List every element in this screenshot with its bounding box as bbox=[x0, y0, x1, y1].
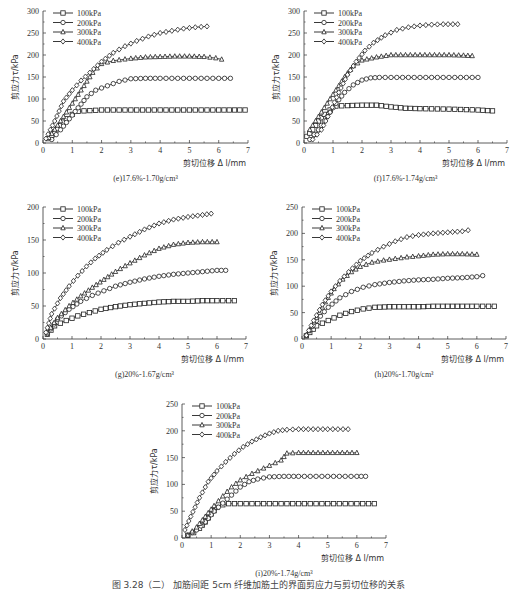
x-tick-label: 2 bbox=[100, 146, 104, 155]
x-tick-label: 7 bbox=[505, 146, 509, 155]
legend-item: 300kPa bbox=[336, 224, 360, 233]
x-tick-label: 3 bbox=[387, 342, 391, 351]
y-tick-label: 200 bbox=[27, 203, 39, 212]
x-tick-label: 1 bbox=[70, 342, 74, 351]
x-tick-label: 0 bbox=[41, 342, 45, 351]
series-400kPa bbox=[311, 22, 460, 142]
x-tick-label: 5 bbox=[446, 342, 450, 351]
legend-item: 300kPa bbox=[338, 28, 362, 37]
x-tick-label: 2 bbox=[360, 146, 364, 155]
y-tick-label: 0 bbox=[35, 335, 39, 344]
x-tick-label: 4 bbox=[417, 342, 421, 351]
y-tick-label: 150 bbox=[27, 236, 39, 245]
legend: 100kPa200kPa300kPa400kPa bbox=[312, 205, 360, 243]
figure-caption: 图 3.28（二） 加筋间距 5cm 纤维加筋土的界面剪应力与剪切位移的关系 bbox=[0, 578, 517, 591]
x-tick-label: 7 bbox=[246, 146, 250, 155]
legend-item: 300kPa bbox=[77, 28, 101, 37]
y-tick-label: 300 bbox=[288, 7, 300, 16]
y-tick-label: 0 bbox=[294, 335, 298, 344]
legend-item: 100kPa bbox=[216, 402, 240, 411]
chart-subtitle: (e)17.6%-1.70g/cm³ bbox=[113, 174, 178, 183]
y-tick-label: 200 bbox=[286, 229, 298, 238]
x-tick-label: 1 bbox=[70, 146, 74, 155]
x-tick-label: 4 bbox=[157, 342, 161, 351]
y-tick-label: 50 bbox=[31, 302, 39, 311]
x-tick-label: 1 bbox=[331, 146, 335, 155]
x-tick-label: 3 bbox=[128, 342, 132, 351]
y-tick-label: 250 bbox=[166, 400, 178, 409]
series-100kPa bbox=[304, 304, 496, 338]
legend-item: 400kPa bbox=[336, 234, 360, 243]
legend-item: 100kPa bbox=[336, 205, 360, 214]
legend-item: 200kPa bbox=[216, 412, 240, 421]
y-tick-label: 200 bbox=[166, 427, 178, 436]
legend-item: 400kPa bbox=[77, 234, 101, 243]
chart-panel-e: 01234567050100150200250300剪应力τ/kPa剪切位移 Δ… bbox=[10, 7, 250, 183]
y-axis-label: 剪应力τ/kPa bbox=[271, 54, 281, 100]
y-tick-label: 100 bbox=[288, 95, 300, 104]
x-tick-label: 3 bbox=[389, 146, 393, 155]
x-axis-label: 剪切位移 Δ l/mm bbox=[441, 354, 504, 364]
x-tick-label: 0 bbox=[302, 146, 306, 155]
chart-subtitle: (g)20%-1.67g/cm³ bbox=[115, 370, 175, 379]
y-tick-label: 50 bbox=[290, 309, 298, 318]
legend-item: 400kPa bbox=[216, 431, 240, 440]
y-tick-label: 100 bbox=[27, 95, 39, 104]
x-axis-label: 剪切位移 Δ l/mm bbox=[181, 354, 244, 364]
y-axis-label: 剪应力τ/kPa bbox=[10, 54, 20, 100]
x-tick-label: 5 bbox=[186, 342, 190, 351]
x-tick-label: 6 bbox=[217, 146, 221, 155]
x-tick-label: 7 bbox=[384, 541, 388, 550]
x-tick-label: 2 bbox=[238, 541, 242, 550]
x-tick-label: 1 bbox=[209, 541, 213, 550]
y-tick-label: 0 bbox=[174, 534, 178, 543]
x-tick-label: 5 bbox=[326, 541, 330, 550]
y-axis-label: 剪应力τ/kPa bbox=[10, 250, 20, 296]
x-tick-label: 4 bbox=[158, 146, 162, 155]
series-300kPa bbox=[47, 54, 224, 140]
x-axis-label: 剪切位移 Δ l/mm bbox=[442, 158, 505, 168]
x-tick-label: 4 bbox=[418, 146, 422, 155]
y-tick-label: 0 bbox=[35, 139, 39, 148]
x-tick-label: 7 bbox=[244, 342, 248, 351]
chart-panel-f: 01234567050100150200250300剪应力τ/kPa剪切位移 Δ… bbox=[271, 7, 509, 183]
x-axis-label: 剪切位移 Δ l/mm bbox=[321, 553, 384, 563]
legend-item: 100kPa bbox=[338, 9, 362, 18]
chart-subtitle: (i)20%-1.74g/cm³ bbox=[255, 569, 313, 578]
figure-canvas: 01234567050100150200250300剪应力τ/kPa剪切位移 Δ… bbox=[0, 0, 517, 592]
y-tick-label: 200 bbox=[288, 51, 300, 60]
y-tick-label: 50 bbox=[31, 117, 39, 126]
y-tick-label: 0 bbox=[296, 139, 300, 148]
legend-item: 400kPa bbox=[338, 38, 362, 47]
y-tick-label: 250 bbox=[27, 29, 39, 38]
y-axis-label: 剪应力τ/kPa bbox=[149, 448, 159, 494]
legend-item: 100kPa bbox=[77, 9, 101, 18]
x-tick-label: 3 bbox=[129, 146, 133, 155]
series-300kPa bbox=[186, 450, 359, 537]
x-tick-label: 5 bbox=[447, 146, 451, 155]
series-300kPa bbox=[304, 251, 479, 337]
legend-item: 300kPa bbox=[216, 421, 240, 430]
x-tick-label: 6 bbox=[215, 342, 219, 351]
y-tick-label: 150 bbox=[286, 256, 298, 265]
legend-item: 200kPa bbox=[77, 19, 101, 28]
y-tick-label: 250 bbox=[288, 29, 300, 38]
legend-item: 400kPa bbox=[77, 38, 101, 47]
x-tick-label: 6 bbox=[355, 541, 359, 550]
y-tick-label: 100 bbox=[27, 269, 39, 278]
legend-item: 300kPa bbox=[77, 224, 101, 233]
y-axis-label: 剪应力τ/kPa bbox=[269, 250, 279, 296]
legend-item: 100kPa bbox=[77, 205, 101, 214]
legend: 100kPa200kPa300kPa400kPa bbox=[314, 9, 362, 47]
x-tick-label: 0 bbox=[300, 342, 304, 351]
y-tick-label: 300 bbox=[27, 7, 39, 16]
x-tick-label: 0 bbox=[41, 146, 45, 155]
x-tick-label: 6 bbox=[476, 146, 480, 155]
chart-panel-i: 01234567050100150200250剪应力τ/kPa剪切位移 Δ l/… bbox=[149, 400, 388, 578]
legend: 100kPa200kPa300kPa400kPa bbox=[192, 402, 240, 440]
x-tick-label: 6 bbox=[475, 342, 479, 351]
x-axis-label: 剪切位移 Δ l/mm bbox=[183, 158, 246, 168]
y-tick-label: 100 bbox=[286, 282, 298, 291]
y-tick-label: 50 bbox=[292, 117, 300, 126]
y-tick-label: 50 bbox=[170, 507, 178, 516]
